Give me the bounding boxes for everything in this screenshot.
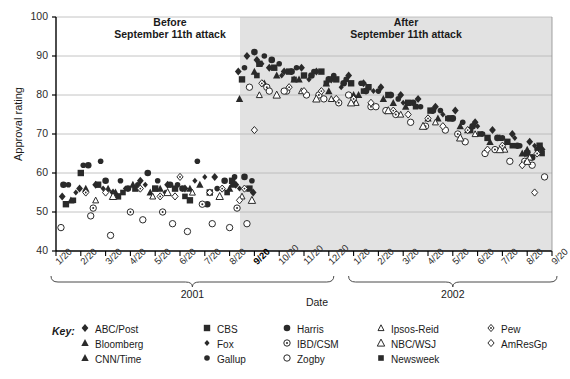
data-point: [254, 73, 260, 79]
open-circle-icon: [280, 352, 294, 368]
y-tick-label: 50: [20, 205, 48, 217]
data-point: [376, 88, 382, 94]
data-point: [182, 194, 188, 200]
data-point: [266, 88, 272, 94]
data-point: [281, 88, 287, 94]
data-point: [127, 209, 133, 215]
data-point: [82, 324, 89, 332]
data-point: [494, 135, 501, 142]
open-triangle-sm-icon: [374, 322, 388, 338]
data-point: [159, 209, 165, 215]
data-point: [318, 68, 324, 74]
data-point: [321, 96, 327, 102]
data-point: [155, 178, 161, 184]
data-point: [358, 81, 364, 87]
data-point: [232, 174, 238, 180]
legend-item[interactable]: NBC/WSJ: [374, 337, 439, 352]
legend-column: ABC/PostBloombergCNN/Time: [78, 322, 143, 367]
data-point: [167, 181, 174, 188]
data-point: [59, 192, 66, 200]
legend-column: PewAmResGp: [484, 322, 547, 352]
filled-circle-sm-icon: [200, 352, 214, 368]
data-point: [60, 181, 67, 188]
data-point: [377, 339, 384, 346]
year-bracket: [51, 276, 334, 287]
filled-diamond-icon: [78, 322, 92, 338]
data-point: [199, 201, 205, 207]
legend-item[interactable]: Fox: [200, 337, 246, 352]
legend-item[interactable]: Bloomberg: [78, 337, 143, 352]
data-point: [294, 65, 300, 71]
data-point: [284, 354, 290, 360]
legend-item[interactable]: Pew: [484, 322, 547, 337]
data-point: [284, 324, 291, 331]
data-point: [507, 158, 513, 164]
year-label-2001: 2001: [162, 288, 222, 300]
data-point: [324, 81, 330, 87]
data-point: [284, 339, 290, 345]
data-point: [460, 120, 466, 126]
open-diamond-icon: [484, 337, 498, 353]
data-point: [288, 68, 295, 75]
data-point: [209, 221, 215, 227]
data-point: [192, 178, 197, 184]
legend-item[interactable]: AmResGp: [484, 337, 547, 352]
data-point: [216, 193, 223, 200]
before-panel-annotation: Before September 11th attack: [80, 16, 260, 40]
data-point: [204, 355, 210, 361]
data-point: [78, 170, 84, 176]
data-point: [179, 185, 186, 192]
data-point: [373, 104, 379, 110]
legend-item[interactable]: IBD/CSM: [280, 337, 339, 352]
legend-item[interactable]: CBS: [200, 322, 246, 337]
data-point: [177, 173, 183, 180]
legend-item[interactable]: Zogby: [280, 352, 339, 367]
data-point: [93, 197, 99, 203]
legend-item[interactable]: Gallup: [200, 352, 246, 367]
open-triangle-icon: [374, 337, 388, 353]
data-point: [271, 65, 277, 71]
data-point: [268, 57, 275, 64]
legend-item-label: Newsweek: [391, 352, 439, 367]
data-point: [345, 92, 351, 98]
after-panel-line2: September 11th attack: [316, 28, 496, 40]
legend-item[interactable]: Newsweek: [374, 352, 439, 367]
data-point: [331, 73, 337, 79]
data-point: [175, 182, 181, 188]
data-point: [157, 193, 163, 200]
legend-item[interactable]: ABC/Post: [78, 322, 143, 337]
data-point: [58, 224, 64, 230]
data-point: [81, 339, 88, 346]
data-point: [484, 135, 490, 141]
data-point: [413, 104, 419, 110]
legend-item[interactable]: Ipsos-Reid: [374, 322, 439, 337]
data-point: [107, 232, 113, 238]
data-point: [98, 159, 104, 165]
filled-square-icon: [200, 322, 214, 338]
legend-item-label: Zogby: [297, 352, 325, 367]
data-point: [102, 178, 109, 185]
data-point: [469, 123, 476, 130]
data-point: [262, 53, 268, 59]
data-point: [204, 324, 210, 330]
data-point: [395, 96, 401, 102]
data-point: [144, 170, 151, 177]
legend-item-label: Harris: [297, 322, 324, 337]
open-circle-dot-icon: [280, 337, 294, 353]
data-point: [172, 193, 178, 200]
open-diamond-dot-icon: [484, 322, 498, 338]
data-point: [195, 159, 201, 165]
data-point: [418, 104, 424, 110]
data-point: [430, 107, 437, 114]
small-filled-diamond-icon: [200, 337, 214, 353]
data-point: [361, 88, 367, 94]
data-point: [246, 84, 252, 90]
after-panel-annotation: After September 11th attack: [316, 16, 496, 40]
data-point: [276, 61, 282, 67]
y-tick-label: 60: [20, 166, 48, 178]
legend-item[interactable]: Harris: [280, 322, 339, 337]
data-point: [301, 72, 307, 78]
data-point: [348, 80, 354, 86]
legend-item[interactable]: CNN/Time: [78, 352, 143, 367]
